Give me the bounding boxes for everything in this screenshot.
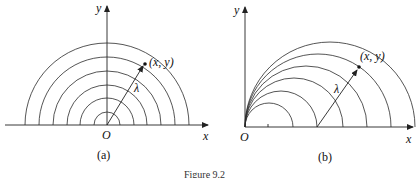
sublabel-b: (b) — [318, 150, 332, 164]
y-label-a: y — [95, 1, 102, 15]
point-xy-b — [357, 65, 361, 69]
lambda-vector-b — [317, 70, 357, 127]
lambda-label-b: λ — [333, 82, 339, 96]
lambda-vector-a — [107, 66, 143, 125]
panel-a: y x O (x, y) λ (a) — [5, 1, 209, 162]
origin-label-a: O — [102, 128, 111, 142]
x-label-b: x — [405, 132, 412, 146]
panel-b: y x O (x, y) λ (b) — [233, 3, 415, 164]
point-label-b: (x, y) — [360, 49, 385, 63]
sublabel-a: (a) — [97, 148, 110, 162]
point-xy-a — [143, 62, 147, 66]
tangent-semicircles — [245, 42, 415, 127]
y-label-b: y — [233, 3, 240, 17]
point-label-a: (x, y) — [149, 55, 174, 69]
figure-caption: Figure 9.2 — [184, 169, 225, 178]
origin-label-b: O — [240, 130, 249, 144]
lambda-label-a: λ — [133, 81, 139, 95]
figure-canvas: y x O (x, y) λ (a) y x O (x, y) λ (b) Fi… — [0, 0, 416, 178]
x-label-a: x — [202, 129, 209, 143]
